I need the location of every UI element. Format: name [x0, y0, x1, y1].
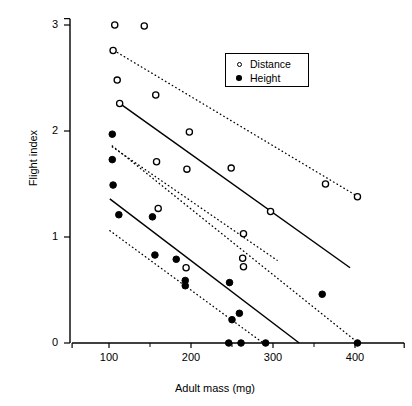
fit-lines-group [110, 103, 350, 343]
data-point-distance [117, 100, 123, 106]
x-tick-label: 400 [340, 351, 370, 363]
data-point-distance [110, 47, 116, 53]
data-point-distance [153, 92, 159, 98]
y-axis-title: Flight index [23, 113, 39, 203]
data-point-distance [354, 194, 360, 200]
data-point-height [319, 291, 326, 298]
height-upper-band [112, 147, 277, 260]
data-point-height [229, 316, 236, 323]
flight-index-scatter-figure: 0123 100200300400 Flight index Adult mas… [0, 0, 412, 406]
data-point-distance [184, 166, 190, 172]
data-point-distance [240, 264, 246, 270]
data-point-height [182, 282, 189, 289]
data-point-height [152, 252, 159, 259]
y-tick-label: 0 [40, 336, 58, 348]
confidence-bands-group [110, 50, 360, 343]
legend-item-distance: Distance [232, 57, 291, 71]
open-circle-icon [232, 62, 246, 67]
data-point-height [109, 156, 116, 163]
data-point-distance [240, 231, 246, 237]
data-point-height [354, 340, 361, 347]
height-fit [110, 199, 299, 343]
distance-lower-band [112, 146, 358, 343]
distance-fit [120, 103, 350, 267]
data-point-distance [114, 77, 120, 83]
plot-canvas [0, 0, 412, 406]
x-axis-title: Adult mass (mg) [70, 378, 360, 396]
legend-label-height: Height [250, 72, 280, 84]
data-point-height [238, 340, 245, 347]
legend-label-distance: Distance [250, 58, 291, 70]
y-tick-label: 3 [40, 18, 58, 30]
filled-circle-icon [232, 75, 246, 81]
x-axis-title-text: Adult mass (mg) [175, 382, 255, 394]
x-tick-label: 200 [176, 351, 206, 363]
data-point-distance [267, 208, 273, 214]
y-axis-title-text: Flight index [27, 130, 39, 186]
data-point-height [262, 340, 269, 347]
data-point-distance [228, 165, 234, 171]
data-point-height [116, 211, 123, 218]
chart-legend: Distance Height [225, 53, 309, 87]
y-tick-label: 2 [40, 124, 58, 136]
data-point-distance [112, 22, 118, 28]
data-point-distance [240, 255, 246, 261]
data-point-distance [153, 159, 159, 165]
data-point-height [109, 131, 116, 138]
data-point-distance [183, 265, 189, 271]
data-point-height [226, 279, 233, 286]
data-point-height [110, 182, 117, 189]
legend-item-height: Height [232, 71, 280, 85]
x-tick-label: 100 [94, 351, 124, 363]
data-point-distance [155, 205, 161, 211]
height-points-group [109, 131, 361, 346]
data-point-distance [322, 181, 328, 187]
data-point-height [149, 214, 156, 221]
y-tick-label: 1 [40, 230, 58, 242]
data-point-height [173, 256, 180, 263]
data-point-distance [186, 129, 192, 135]
data-point-height [236, 310, 243, 317]
data-point-height [225, 340, 232, 347]
x-tick-label: 300 [258, 351, 288, 363]
data-point-distance [141, 23, 147, 29]
